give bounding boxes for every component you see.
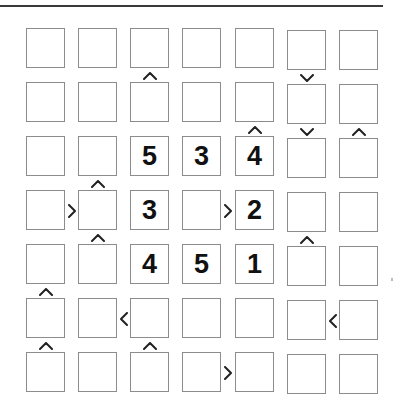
empty-cell[interactable] xyxy=(26,298,65,338)
greater-than-icon xyxy=(224,204,232,218)
empty-cell[interactable] xyxy=(235,28,274,68)
empty-cell[interactable] xyxy=(339,84,378,124)
empty-cell[interactable] xyxy=(78,82,117,122)
caret-up-icon xyxy=(91,234,105,242)
empty-cell[interactable] xyxy=(182,82,221,122)
less-than-icon xyxy=(329,314,337,328)
empty-cell[interactable] xyxy=(78,352,117,392)
empty-cell[interactable] xyxy=(78,190,117,230)
empty-cell[interactable] xyxy=(78,244,117,284)
caret-down-icon xyxy=(300,74,314,82)
caret-up-icon xyxy=(352,128,366,136)
given-cell: 2 xyxy=(235,190,274,230)
caret-up-icon xyxy=(39,288,53,296)
empty-cell[interactable] xyxy=(78,136,117,176)
caret-up-icon xyxy=(248,126,262,134)
empty-cell[interactable] xyxy=(26,352,65,392)
given-cell: 5 xyxy=(182,244,221,284)
empty-cell[interactable] xyxy=(339,300,378,340)
caret-up-icon xyxy=(143,342,157,350)
empty-cell[interactable] xyxy=(287,138,326,178)
greater-than-icon xyxy=(224,366,232,380)
empty-cell[interactable] xyxy=(130,82,169,122)
scan-artifact xyxy=(391,278,393,281)
empty-cell[interactable] xyxy=(235,352,274,392)
empty-cell[interactable] xyxy=(26,244,65,284)
empty-cell[interactable] xyxy=(235,82,274,122)
empty-cell[interactable] xyxy=(182,352,221,392)
caret-up-icon xyxy=(91,180,105,188)
empty-cell[interactable] xyxy=(339,138,378,178)
empty-cell[interactable] xyxy=(78,298,117,338)
empty-cell[interactable] xyxy=(130,28,169,68)
less-than-icon xyxy=(120,312,128,326)
empty-cell[interactable] xyxy=(235,298,274,338)
given-cell: 4 xyxy=(235,136,274,176)
empty-cell[interactable] xyxy=(26,82,65,122)
caret-up-icon xyxy=(39,342,53,350)
empty-cell[interactable] xyxy=(339,246,378,286)
empty-cell[interactable] xyxy=(182,298,221,338)
empty-cell[interactable] xyxy=(130,298,169,338)
empty-cell[interactable] xyxy=(78,28,117,68)
empty-cell[interactable] xyxy=(182,190,221,230)
empty-cell[interactable] xyxy=(287,192,326,232)
empty-cell[interactable] xyxy=(287,354,326,394)
caret-up-icon xyxy=(300,236,314,244)
caret-up-icon xyxy=(143,72,157,80)
empty-cell[interactable] xyxy=(287,30,326,70)
given-cell: 1 xyxy=(235,244,274,284)
empty-cell[interactable] xyxy=(339,354,378,394)
caret-down-icon xyxy=(300,128,314,136)
empty-cell[interactable] xyxy=(339,30,378,70)
given-cell: 3 xyxy=(182,136,221,176)
empty-cell[interactable] xyxy=(339,192,378,232)
given-cell: 3 xyxy=(130,190,169,230)
empty-cell[interactable] xyxy=(287,246,326,286)
given-cell: 5 xyxy=(130,136,169,176)
empty-cell[interactable] xyxy=(287,300,326,340)
top-rule xyxy=(0,5,383,7)
empty-cell[interactable] xyxy=(182,28,221,68)
empty-cell[interactable] xyxy=(26,136,65,176)
greater-than-icon xyxy=(68,204,76,218)
empty-cell[interactable] xyxy=(26,190,65,230)
empty-cell[interactable] xyxy=(26,28,65,68)
empty-cell[interactable] xyxy=(130,352,169,392)
empty-cell[interactable] xyxy=(287,84,326,124)
given-cell: 4 xyxy=(130,244,169,284)
